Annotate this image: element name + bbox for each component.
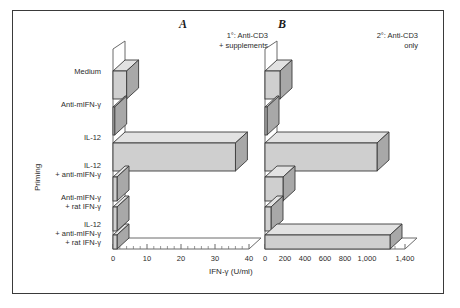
- figure-frame: Priming Medium Anti-mIFN-γ IL-12 IL-12 +…: [12, 10, 444, 294]
- bar-b-medium: [265, 60, 292, 99]
- category-label-il12-anti-mifn-rat-ifn: IL-12 + anti-mIFN-γ + rat IFN-γ: [23, 220, 101, 247]
- panel-a-letter: A: [179, 17, 187, 32]
- panel-a-tick-30: 30: [211, 254, 219, 263]
- panel-b-tick-200: 200: [279, 254, 292, 263]
- category-label-il12-anti-mifn: IL-12 + anti-mIFN-γ: [23, 161, 101, 179]
- category-label-il12: IL-12: [23, 133, 101, 142]
- panel-a-tick-20: 20: [177, 254, 185, 263]
- bar-b-il12-anti-mifn-rat-ifn: [265, 224, 402, 249]
- panel-b-tick-400: 400: [299, 254, 312, 263]
- panel-a-plot: [101, 41, 261, 271]
- x-axis-title: IFN-γ (U/ml): [209, 267, 253, 276]
- panel-b-tick-800: 800: [339, 254, 352, 263]
- bar-b-il12: [265, 132, 389, 171]
- panel-b-tick-0: 0: [263, 254, 267, 263]
- category-label-medium: Medium: [23, 67, 101, 76]
- category-label-anti-mifn-rat-ifn: Anti-mIFN-γ + rat IFN-γ: [23, 193, 101, 211]
- panel-b-plot: [253, 41, 433, 271]
- panel-a-tick-0: 0: [111, 254, 115, 263]
- bar-a-il12: [113, 132, 247, 171]
- panel-b-tick-1400: 1,400: [396, 254, 415, 263]
- category-label-anti-mifn: Anti-mIFN-γ: [23, 100, 101, 109]
- panel-b-tick-1000: 1,000: [358, 254, 377, 263]
- panel-a-tick-40: 40: [245, 254, 253, 263]
- panel-a-tick-10: 10: [143, 254, 151, 263]
- panel-b-tick-600: 600: [319, 254, 332, 263]
- bar-a-medium: [113, 60, 139, 99]
- panel-b-letter: B: [278, 17, 286, 32]
